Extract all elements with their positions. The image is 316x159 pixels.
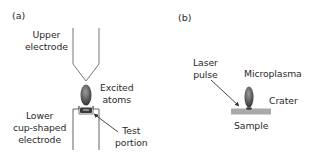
diagram-graphics — [0, 0, 316, 159]
excited-atoms-plasma — [81, 85, 92, 106]
microplasma — [245, 87, 254, 108]
crater — [246, 107, 252, 110]
upper-electrode — [73, 28, 99, 81]
test-portion-highlight — [83, 109, 89, 111]
test-portion-arrow — [94, 114, 118, 132]
laser-pulse-arrow — [211, 80, 239, 106]
